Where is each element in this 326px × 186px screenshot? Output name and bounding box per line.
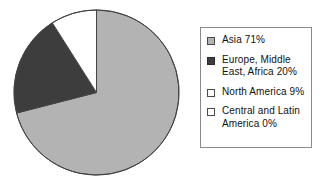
- legend-swatch-asia: [207, 37, 215, 45]
- legend-label-central-and-latin-america: Central and Latin America 0%: [222, 105, 300, 130]
- legend-swatch-europe-middle-east-africa: [207, 57, 215, 65]
- legend-item-europe-middle-east-africa[interactable]: Europe, Middle East, Africa 20%: [201, 54, 311, 79]
- legend-label-north-america: North America 9%: [222, 86, 304, 99]
- legend-item-central-and-latin-america[interactable]: Central and Latin America 0%: [201, 105, 311, 130]
- chart-legend: Asia 71% Europe, Middle East, Africa 20%…: [200, 27, 312, 148]
- legend-item-asia[interactable]: Asia 71%: [201, 34, 311, 47]
- legend-swatch-central-and-latin-america: [207, 108, 215, 116]
- pie-slices: [14, 10, 179, 175]
- legend-item-north-america[interactable]: North America 9%: [201, 86, 311, 99]
- legend-label-europe-middle-east-africa: Europe, Middle East, Africa 20%: [222, 54, 297, 79]
- pie-chart-figure: Asia 71% Europe, Middle East, Africa 20%…: [0, 0, 326, 186]
- legend-swatch-north-america: [207, 89, 215, 97]
- pie-chart-svg: [13, 9, 180, 176]
- pie-chart: [13, 9, 180, 176]
- legend-label-asia: Asia 71%: [222, 34, 265, 47]
